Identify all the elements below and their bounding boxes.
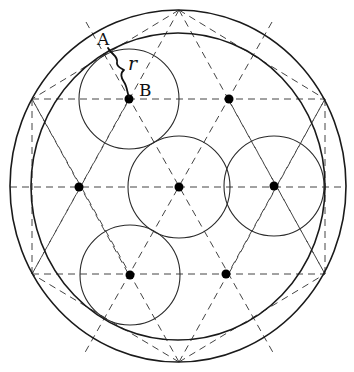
lattice-point-dot	[175, 183, 184, 192]
diagram-canvas: A r B	[0, 0, 354, 372]
dashed-lattice-line	[179, 274, 325, 362]
lattice-point-dot	[75, 183, 84, 192]
lattice-point-dot	[222, 270, 231, 279]
label-radius-r: r	[128, 52, 139, 74]
dashed-lattice-line	[32, 10, 179, 274]
dashed-lattice-line	[32, 99, 179, 362]
label-point-b: B	[139, 80, 152, 100]
lattice-points	[75, 95, 279, 280]
lattice-point-dot	[225, 95, 234, 104]
lattice-point-dot	[126, 271, 135, 280]
circle-packing-diagram: A r B	[0, 0, 354, 372]
label-point-a: A	[96, 29, 110, 49]
radius-brace	[108, 48, 129, 97]
lattice-point-dot	[270, 182, 279, 191]
